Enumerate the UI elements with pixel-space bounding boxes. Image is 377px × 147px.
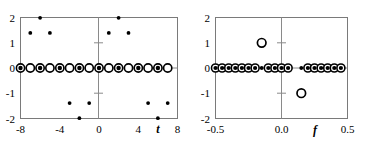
x-tick-label: 0.0 [275, 123, 289, 135]
y-tick-label: 0 [10, 62, 16, 74]
x-tick-label: 4 [135, 123, 141, 135]
x-axis-title: f [313, 123, 318, 137]
time-domain-plot: 2 1 0 -1 -2 -8 -4 0 4 8 t [0, 0, 189, 147]
frequency-domain-plot: 2 1 0 -1 -2 -0.5 0.0 0.5 f [188, 0, 377, 147]
figure-root: 2 1 0 -1 -2 -8 -4 0 4 8 t [0, 0, 377, 147]
x-tick-label: -0.5 [207, 123, 225, 135]
frequency-domain-svg: 2 1 0 -1 -2 -0.5 0.0 0.5 f [188, 0, 377, 147]
spectral-line-positive-marker [257, 39, 266, 48]
y-tick-label: 0 [205, 62, 211, 74]
x-tick-label: -4 [55, 123, 65, 135]
y-tick-label: -2 [6, 113, 15, 125]
y-tick-label: 2 [10, 12, 16, 24]
time-domain-svg: 2 1 0 -1 -2 -8 -4 0 4 8 t [0, 0, 189, 147]
x-tick-label: 0.5 [341, 123, 355, 135]
x-tick-label: 8 [175, 123, 181, 135]
y-tick-label: -1 [6, 87, 15, 99]
spectrum-zero-markers [212, 64, 345, 72]
x-tick-label: -8 [16, 123, 26, 135]
x-tick-label: 0 [96, 123, 102, 135]
y-tick-label: -1 [201, 87, 210, 99]
y-tick-label: 1 [10, 37, 16, 49]
spectral-line-negative-marker [297, 89, 306, 98]
y-tick-label: 1 [205, 37, 211, 49]
y-tick-label: 2 [205, 12, 211, 24]
x-axis-title: t [156, 122, 160, 136]
